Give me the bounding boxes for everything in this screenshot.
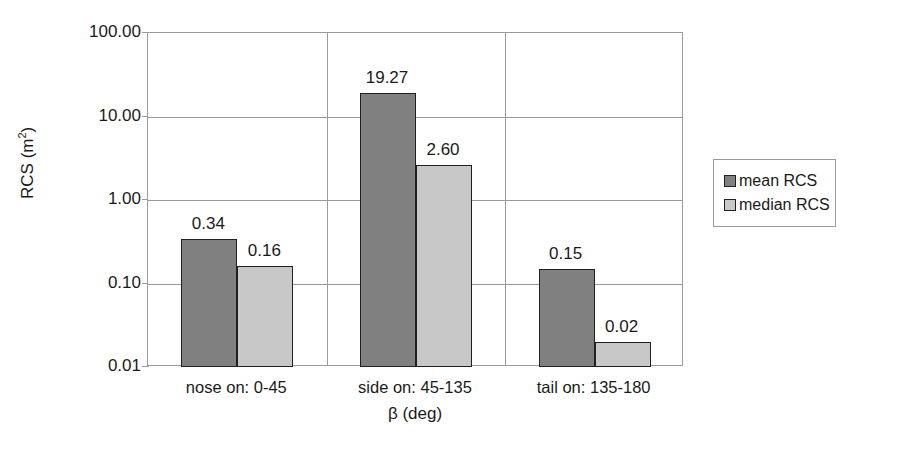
- bar-value-label-mean-2: 19.27: [366, 68, 409, 88]
- legend-swatch-median-icon: [724, 199, 736, 211]
- x-category-label-3: tail on: 135-180: [504, 378, 683, 397]
- y-axis-ticks: 100.0010.001.000.100.01: [45, 32, 141, 366]
- bar-mean-1[interactable]: [181, 239, 237, 367]
- bar-value-label-median-2: 2.60: [426, 140, 459, 160]
- bar-mean-3[interactable]: [539, 269, 595, 367]
- category-separator-1: [327, 33, 328, 365]
- y-axis-title-base: RCS (m: [18, 139, 37, 199]
- y-tick-label-1.00: 1.00: [53, 189, 141, 209]
- legend-label-median: median RCS: [739, 196, 830, 214]
- bar-median-1[interactable]: [237, 266, 293, 367]
- legend-item-mean[interactable]: mean RCS: [724, 169, 827, 193]
- bar-value-label-median-3: 0.02: [605, 317, 638, 337]
- bar-median-2[interactable]: [416, 165, 472, 367]
- x-category-label-2: side on: 45-135: [326, 378, 505, 397]
- y-tick-label-0.01: 0.01: [53, 356, 141, 376]
- legend-label-mean: mean RCS: [739, 172, 817, 190]
- x-axis-title: β (deg): [147, 404, 683, 424]
- bar-value-label-median-1: 0.16: [248, 241, 281, 261]
- y-tick-label-0.10: 0.10: [53, 273, 141, 293]
- y-axis-title-superscript: 2: [16, 132, 28, 138]
- chart-legend: mean RCS median RCS: [713, 159, 836, 227]
- bar-value-label-mean-1: 0.34: [192, 214, 225, 234]
- x-category-label-1: nose on: 0-45: [147, 378, 326, 397]
- y-tick-mark-0.01: [142, 366, 149, 367]
- category-separator-2: [505, 33, 506, 365]
- y-axis-title-tail: ): [18, 127, 37, 133]
- chart-figure: RCS (m2) 100.0010.001.000.100.01 0.340.1…: [0, 0, 907, 453]
- plot-area: [147, 32, 683, 366]
- y-tick-label-10.00: 10.00: [53, 106, 141, 126]
- bar-median-3[interactable]: [595, 342, 651, 367]
- y-tick-label-100.00: 100.00: [53, 22, 141, 42]
- legend-item-median[interactable]: median RCS: [724, 193, 827, 217]
- bar-value-label-mean-3: 0.15: [549, 244, 582, 264]
- y-axis-title: RCS (m2): [16, 73, 38, 253]
- bar-mean-2[interactable]: [360, 93, 416, 367]
- legend-swatch-mean-icon: [724, 175, 736, 187]
